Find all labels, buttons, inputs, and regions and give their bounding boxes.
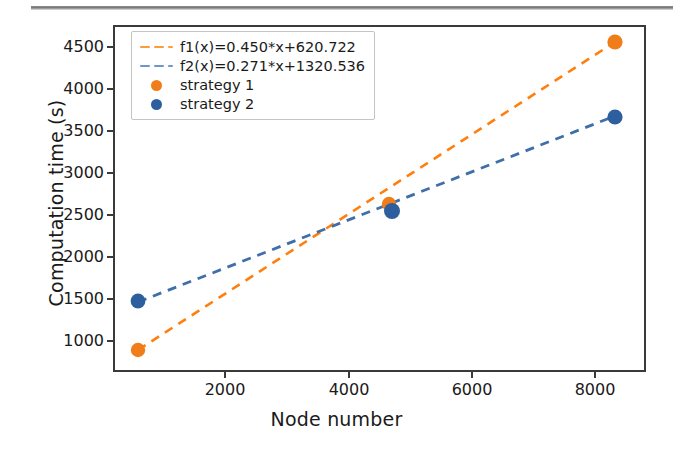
chart-figure: 4500 4000 3500 3000 2500 2000 1500 1000 … — [0, 0, 673, 449]
legend-label-f1: f1(x)=0.450*x+620.722 — [180, 40, 356, 54]
x-tick-label-6000: 6000 — [437, 380, 507, 399]
x-tick-mark-2000 — [224, 372, 226, 378]
fit-line-f2 — [138, 116, 615, 302]
data-point-strategy1-3 — [607, 34, 622, 49]
data-point-strategy2-1 — [131, 294, 146, 309]
legend-item-f2: f2(x)=0.271*x+1320.536 — [139, 56, 365, 75]
data-point-strategy2-2 — [384, 203, 400, 219]
legend-label-strategy-1: strategy 1 — [180, 78, 254, 92]
x-tick-label-4000: 4000 — [314, 380, 384, 399]
legend-key-dashed-line-f1-icon — [139, 40, 173, 54]
legend-label-strategy-2: strategy 2 — [180, 97, 254, 111]
y-axis-title: Computation time (s) — [45, 43, 67, 363]
x-tick-mark-4000 — [348, 372, 350, 378]
data-point-strategy2-3 — [607, 109, 622, 124]
legend-label-f2: f2(x)=0.271*x+1320.536 — [180, 59, 365, 73]
legend-key-dashed-line-f2-icon — [139, 59, 173, 73]
legend-key-marker-strategy2-icon — [139, 97, 173, 111]
data-point-strategy1-1 — [131, 343, 145, 357]
legend-item-strategy-1: strategy 1 — [139, 75, 365, 94]
x-tick-mark-6000 — [471, 372, 473, 378]
legend-item-strategy-2: strategy 2 — [139, 94, 365, 113]
legend-key-marker-strategy1-icon — [139, 78, 173, 92]
x-tick-label-8000: 8000 — [560, 380, 630, 399]
x-axis-title: Node number — [0, 408, 673, 430]
x-tick-mark-8000 — [594, 372, 596, 378]
chart-legend: f1(x)=0.450*x+620.722 f2(x)=0.271*x+1320… — [131, 31, 375, 120]
legend-item-f1: f1(x)=0.450*x+620.722 — [139, 37, 365, 56]
x-tick-label-2000: 2000 — [190, 380, 260, 399]
